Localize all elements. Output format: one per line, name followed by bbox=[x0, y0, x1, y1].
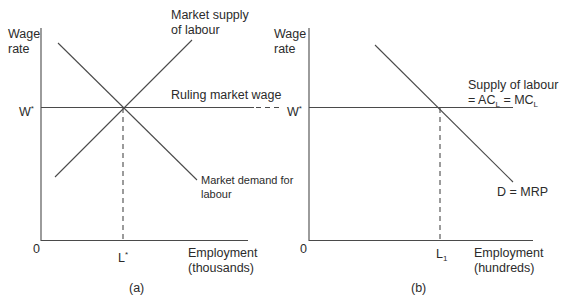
lstar-letter: L bbox=[118, 251, 125, 265]
panel-b-x-axis-label: Employment (hundreds) bbox=[474, 246, 543, 276]
panel-b-graphics bbox=[309, 28, 533, 241]
wstar-sup: * bbox=[31, 104, 34, 113]
panel-b-x-label-line2: (hundreds) bbox=[474, 261, 543, 276]
supply-label-line2: of labour bbox=[171, 23, 249, 38]
wstar-letter: W bbox=[19, 105, 31, 119]
panel-a-y-label-line2: rate bbox=[8, 42, 40, 57]
panel-b-demand-label: D = MRP bbox=[497, 185, 548, 200]
panel-b-x-label-line1: Employment bbox=[474, 246, 543, 261]
panel-b-y-axis-label: Wage rate bbox=[274, 27, 306, 57]
panel-a-x-axis-label: Employment (thousands) bbox=[188, 246, 257, 276]
ac-text: = AC bbox=[468, 93, 495, 107]
mc-text: = MC bbox=[500, 93, 534, 107]
wstar-b-sup: * bbox=[299, 104, 302, 113]
lstar-sup: * bbox=[125, 250, 128, 259]
panel-a-x-label-line2: (thousands) bbox=[188, 261, 257, 276]
panel-b-demand-curve bbox=[375, 45, 513, 182]
panel-a-demand-curve bbox=[58, 43, 197, 180]
l1-sub: 1 bbox=[443, 254, 447, 263]
panel-b-wstar-tick: W* bbox=[287, 101, 302, 120]
demand-label-line2: labour bbox=[201, 187, 293, 201]
panel-a-y-label-line1: Wage bbox=[8, 27, 40, 42]
panel-a-wstar-tick: W* bbox=[19, 101, 34, 120]
demand-label-line1: Market demand for bbox=[201, 173, 293, 187]
panel-b-supply-line1: Supply of labour bbox=[468, 78, 558, 93]
panel-b-caption: (b) bbox=[411, 281, 426, 296]
panel-a-caption: (a) bbox=[129, 281, 144, 296]
panel-a-y-axis-label: Wage rate bbox=[8, 27, 40, 57]
l1-letter: L bbox=[436, 247, 443, 261]
panel-a-supply-label: Market supply of labour bbox=[171, 8, 249, 38]
panel-a-origin: 0 bbox=[33, 242, 40, 257]
panel-b-supply-label: Supply of labour = ACL = MCL bbox=[468, 78, 558, 112]
panel-a-x-label-line1: Employment bbox=[188, 246, 257, 261]
panel-b-supply-line2: = ACL = MCL bbox=[468, 93, 558, 112]
panel-a-demand-label: Market demand for labour bbox=[201, 173, 293, 201]
supply-label-line1: Market supply bbox=[171, 8, 249, 23]
panel-b-y-label-line1: Wage bbox=[274, 27, 306, 42]
ruling-market-wage-label: Ruling market wage bbox=[171, 88, 281, 103]
mc-sub: L bbox=[534, 100, 538, 109]
panel-a-graphics bbox=[41, 28, 283, 241]
panel-b-origin: 0 bbox=[300, 242, 307, 257]
wstar-b-letter: W bbox=[287, 105, 299, 119]
panel-a-lstar-tick: L* bbox=[118, 247, 128, 266]
panel-b-l1-tick: L1 bbox=[436, 247, 447, 266]
panel-b-y-label-line2: rate bbox=[274, 42, 306, 57]
